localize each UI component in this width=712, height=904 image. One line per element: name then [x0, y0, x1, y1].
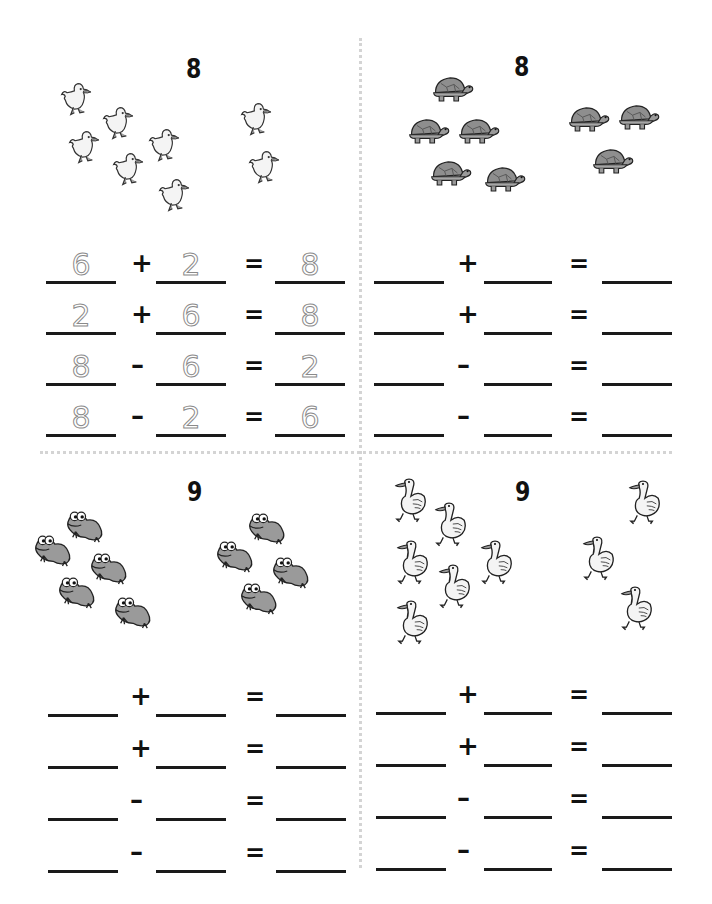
- equals-sign: =: [244, 405, 264, 429]
- minus-sign: –: [457, 403, 470, 429]
- equation-row: +=: [360, 727, 700, 767]
- equation-row: +=: [360, 675, 700, 715]
- answer-blank-c[interactable]: [276, 870, 346, 873]
- minus-sign: –: [457, 352, 470, 378]
- equals-sign: =: [244, 303, 264, 327]
- answer-blank-a[interactable]: [376, 712, 446, 715]
- traced-number: 2: [46, 301, 116, 331]
- frog-icon: [238, 577, 282, 617]
- plus-sign: +: [130, 683, 152, 709]
- answer-blank-a[interactable]: [374, 383, 444, 386]
- plus-sign: +: [457, 250, 479, 276]
- equation-row: 862–=: [0, 346, 340, 386]
- answer-blank-a[interactable]: [48, 714, 118, 717]
- equation-row: –=: [360, 346, 700, 386]
- frog-icon: [112, 591, 156, 631]
- quadrant-number: 8: [186, 54, 201, 84]
- equals-sign: =: [569, 405, 589, 429]
- equation-row: –=: [360, 831, 700, 871]
- equals-sign: =: [569, 683, 589, 707]
- minus-sign: –: [130, 787, 143, 813]
- plus-sign: +: [457, 733, 479, 759]
- answer-blank-a[interactable]: [374, 434, 444, 437]
- answer-blank-c[interactable]: [602, 332, 672, 335]
- goose-icon: [624, 479, 668, 519]
- equals-sign: =: [245, 685, 265, 709]
- equals-sign: =: [569, 839, 589, 863]
- minus-sign: –: [131, 352, 144, 378]
- turtle-icon: [406, 114, 450, 154]
- answer-blank-c[interactable]: [602, 816, 672, 819]
- answer-blank-b[interactable]: [484, 332, 552, 335]
- equals-sign: =: [245, 789, 265, 813]
- equals-sign: =: [245, 737, 265, 761]
- answer-blank-c[interactable]: [276, 766, 346, 769]
- equation-row: 628+=: [0, 244, 340, 284]
- answer-blank-c[interactable]: [602, 281, 672, 284]
- frog-icon: [32, 529, 76, 569]
- duck-chick-icon: [238, 100, 282, 140]
- equation-row: +=: [360, 295, 700, 335]
- answer-blank-b[interactable]: [484, 764, 552, 767]
- duck-chick-icon: [156, 176, 200, 216]
- quadrant-4: 9: [360, 455, 700, 895]
- duck-chick-icon: [246, 148, 290, 188]
- duck-chick-icon: [66, 128, 110, 168]
- answer-blank-c[interactable]: [602, 383, 672, 386]
- answer-blank-b[interactable]: [156, 818, 226, 821]
- equation-row: –=: [360, 397, 700, 437]
- answer-blank-a[interactable]: [376, 816, 446, 819]
- traced-number: 8: [46, 403, 116, 433]
- duck-chick-icon: [110, 150, 154, 190]
- turtle-icon: [482, 162, 526, 202]
- frog-icon: [214, 535, 258, 575]
- minus-sign: –: [131, 403, 144, 429]
- answer-blank-c[interactable]: [602, 434, 672, 437]
- traced-number: 6: [156, 301, 226, 331]
- answer-blank-a[interactable]: [376, 764, 446, 767]
- equals-sign: =: [245, 841, 265, 865]
- answer-blank-a[interactable]: [48, 870, 118, 873]
- equals-sign: =: [569, 252, 589, 276]
- goose-icon: [392, 599, 436, 639]
- plus-sign: +: [131, 301, 153, 327]
- traced-number: 8: [275, 301, 345, 331]
- answer-blank-c[interactable]: [276, 818, 346, 821]
- answer-blank-b[interactable]: [484, 816, 552, 819]
- answer-blank-b[interactable]: [484, 868, 552, 871]
- answer-blank-c[interactable]: [602, 712, 672, 715]
- plus-sign: +: [130, 735, 152, 761]
- horizontal-divider: [40, 451, 672, 454]
- answer-blank-a[interactable]: [376, 868, 446, 871]
- answer-blank-b[interactable]: [484, 383, 552, 386]
- answer-blank-b[interactable]: [156, 870, 226, 873]
- answer-blank-c[interactable]: [602, 764, 672, 767]
- traced-number: 6: [156, 352, 226, 382]
- turtle-icon: [616, 100, 660, 140]
- answer-blank-b[interactable]: [484, 281, 552, 284]
- answer-blank-c[interactable]: [602, 868, 672, 871]
- answer-blank-b[interactable]: [484, 434, 552, 437]
- answer-blank-a[interactable]: [374, 281, 444, 284]
- equation-row: +=: [0, 677, 340, 717]
- answer-blank-a[interactable]: [374, 332, 444, 335]
- answer-blank-a[interactable]: [48, 766, 118, 769]
- quadrant-2: 8: [360, 0, 700, 450]
- goose-icon: [616, 585, 660, 625]
- goose-icon: [476, 539, 520, 579]
- quadrant-3: 9: [0, 455, 340, 895]
- answer-blank-c[interactable]: [276, 714, 346, 717]
- traced-number: 8: [275, 250, 345, 280]
- minus-sign: –: [457, 837, 470, 863]
- answer-blank-b[interactable]: [156, 714, 226, 717]
- turtle-icon: [566, 102, 610, 142]
- equals-sign: =: [244, 354, 264, 378]
- answer-blank-b[interactable]: [156, 766, 226, 769]
- plus-sign: +: [457, 301, 479, 327]
- traced-number: 6: [46, 250, 116, 280]
- answer-blank-a[interactable]: [48, 818, 118, 821]
- frog-icon: [56, 571, 100, 611]
- goose-icon: [390, 477, 434, 517]
- answer-blank-b[interactable]: [484, 712, 552, 715]
- goose-icon: [434, 563, 478, 603]
